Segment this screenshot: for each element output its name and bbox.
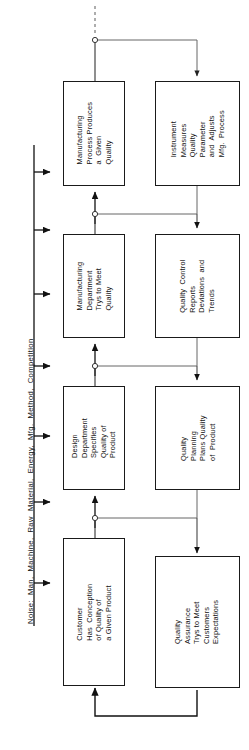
box-label-quality-assurance: Quality Assurance Trys to Meet Customers… bbox=[174, 600, 222, 644]
junction-dot-2 bbox=[92, 363, 97, 368]
noise-arrows bbox=[34, 172, 50, 583]
box-text-wrap: Instrument Measures Quality Parameter an… bbox=[156, 82, 239, 185]
box-quality-planning[interactable]: Quality Planning Plans Quality of Produc… bbox=[155, 386, 240, 490]
junction-dot-top bbox=[92, 37, 97, 42]
junction-dot-3 bbox=[92, 515, 97, 520]
box-text-wrap: Design Department Specifies Quality of P… bbox=[64, 387, 124, 489]
box-manufacturing-department[interactable]: Manufacturing Department Trys to Meet Qu… bbox=[63, 234, 125, 338]
box-text-wrap: Customer Has Conception of Quality of a … bbox=[64, 539, 124, 685]
diagram-canvas: Noise: Man, Machine, Raw Material, Energ… bbox=[0, 0, 249, 750]
box-label-manufacturing-department: Manufacturing Department Trys to Meet Qu… bbox=[75, 262, 113, 311]
box-text-wrap: Manufacturing Department Trys to Meet Qu… bbox=[64, 235, 124, 337]
box-customer-conception[interactable]: Customer Has Conception of Quality of a … bbox=[63, 538, 125, 686]
box-text-wrap: Quality Planning Plans Quality of Produc… bbox=[156, 387, 239, 489]
box-label-quality-planning: Quality Planning Plans Quality of Produc… bbox=[178, 415, 216, 461]
box-text-wrap: Quality Assurance Trys to Meet Customers… bbox=[156, 557, 239, 687]
box-text-wrap: Quality Control Reports Deviations and T… bbox=[156, 235, 239, 337]
box-quality-assurance[interactable]: Quality Assurance Trys to Meet Customers… bbox=[155, 556, 240, 688]
box-label-customer-conception: Customer Has Conception of Quality of a … bbox=[75, 584, 113, 641]
box-quality-control[interactable]: Quality Control Reports Deviations and T… bbox=[155, 234, 240, 338]
noise-axis-label: Noise: Man, Machine, Raw Material, Energ… bbox=[26, 338, 35, 624]
box-instrument-measures[interactable]: Instrument Measures Quality Parameter an… bbox=[155, 81, 240, 186]
box-manufacturing-process[interactable]: Manufacturing Process Produces a Given Q… bbox=[63, 81, 125, 186]
box-label-quality-control: Quality Control Reports Deviations and T… bbox=[178, 259, 216, 312]
box-label-manufacturing-process: Manufacturing Process Produces a Given Q… bbox=[75, 102, 113, 164]
junction-dot-1 bbox=[92, 211, 97, 216]
box-label-design-department: Design Department Specifies Quality of P… bbox=[70, 418, 118, 458]
bottom-feedback-loop bbox=[95, 688, 197, 716]
box-text-wrap: Manufacturing Process Produces a Given Q… bbox=[64, 82, 124, 185]
box-label-instrument-measures: Instrument Measures Quality Parameter an… bbox=[169, 110, 227, 157]
box-design-department[interactable]: Design Department Specifies Quality of P… bbox=[63, 386, 125, 490]
